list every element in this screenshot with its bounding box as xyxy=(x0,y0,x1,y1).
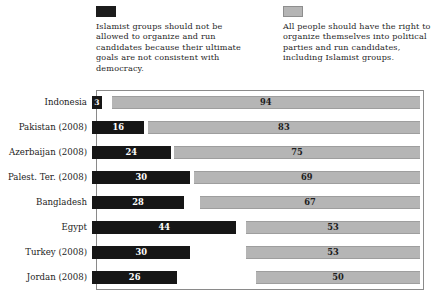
bar-segment-support: 50 xyxy=(256,271,420,284)
bar-value-oppose: 3 xyxy=(94,96,99,109)
chart-row: Palest. Ter. (2008)3069 xyxy=(0,171,442,184)
chart-row-label: Palest. Ter. (2008) xyxy=(0,171,92,184)
bar-value-oppose: 44 xyxy=(158,221,170,234)
bar-value-support: 53 xyxy=(327,246,339,259)
bar-segment-oppose: 16 xyxy=(92,121,144,134)
chart-bar-track: 2475 xyxy=(92,146,420,159)
chart-row: Bangladesh2867 xyxy=(0,196,442,209)
legend-entry-dark: Islamist groups should not be allowed to… xyxy=(96,6,245,73)
bar-segment-oppose: 26 xyxy=(92,271,177,284)
bar-segment-oppose: 28 xyxy=(92,196,184,209)
bar-value-oppose: 16 xyxy=(112,121,124,134)
legend-swatch-light-icon xyxy=(283,6,303,17)
chart-row: Pakistan (2008)1683 xyxy=(0,121,442,134)
bar-value-support: 94 xyxy=(260,96,272,109)
bar-segment-support: 75 xyxy=(174,146,420,159)
chart-bar-track: 2867 xyxy=(92,196,420,209)
chart-row-label: Egypt xyxy=(0,221,92,234)
bar-segment-support: 83 xyxy=(148,121,420,134)
chart-bar-track: 3053 xyxy=(92,246,420,259)
bar-segment-support: 69 xyxy=(194,171,420,184)
chart-bar-track: 1683 xyxy=(92,121,420,134)
chart-row-label: Bangladesh xyxy=(0,196,92,209)
bar-value-oppose: 28 xyxy=(132,196,144,209)
chart-rows-container: Indonesia394Pakistan (2008)1683Azerbaija… xyxy=(0,90,442,290)
bar-segment-oppose: 30 xyxy=(92,171,190,184)
chart-row: Indonesia394 xyxy=(0,96,442,109)
chart-bar-track: 4453 xyxy=(92,221,420,234)
bar-value-oppose: 30 xyxy=(135,171,147,184)
bar-value-oppose: 24 xyxy=(126,146,138,159)
bar-value-support: 50 xyxy=(332,271,344,284)
bar-value-oppose: 26 xyxy=(129,271,141,284)
bar-value-support: 53 xyxy=(327,221,339,234)
chart-row-label: Pakistan (2008) xyxy=(0,121,92,134)
chart-row: Jordan (2008)2650 xyxy=(0,271,442,284)
chart-bar-track: 2650 xyxy=(92,271,420,284)
bar-value-support: 67 xyxy=(304,196,316,209)
bar-value-oppose: 30 xyxy=(135,246,147,259)
bar-segment-support: 94 xyxy=(112,96,420,109)
bar-segment-oppose: 24 xyxy=(92,146,171,159)
chart-row: Turkey (2008)3053 xyxy=(0,246,442,259)
bar-segment-oppose: 30 xyxy=(92,246,190,259)
legend-label-dark: Islamist groups should not be allowed to… xyxy=(96,21,245,73)
legend-swatch-dark-icon xyxy=(96,6,116,17)
bar-segment-support: 53 xyxy=(246,246,420,259)
bar-value-support: 83 xyxy=(278,121,290,134)
chart-row-label: Indonesia xyxy=(0,96,92,109)
chart-bar-track: 394 xyxy=(92,96,420,109)
chart-legend: Islamist groups should not be allowed to… xyxy=(96,6,432,73)
legend-entry-light: All people should have the right to orga… xyxy=(283,6,432,63)
legend-label-light: All people should have the right to orga… xyxy=(283,21,432,63)
chart-row: Azerbaijan (2008)2475 xyxy=(0,146,442,159)
chart-row-label: Jordan (2008) xyxy=(0,271,92,284)
bar-segment-support: 67 xyxy=(200,196,420,209)
bar-segment-support: 53 xyxy=(246,221,420,234)
chart-row-label: Turkey (2008) xyxy=(0,246,92,259)
bar-value-support: 69 xyxy=(301,171,313,184)
chart-row: Egypt4453 xyxy=(0,221,442,234)
bar-value-support: 75 xyxy=(291,146,303,159)
chart-row-label: Azerbaijan (2008) xyxy=(0,146,92,159)
bar-segment-oppose: 44 xyxy=(92,221,236,234)
chart-bar-track: 3069 xyxy=(92,171,420,184)
bar-segment-oppose: 3 xyxy=(92,96,102,109)
